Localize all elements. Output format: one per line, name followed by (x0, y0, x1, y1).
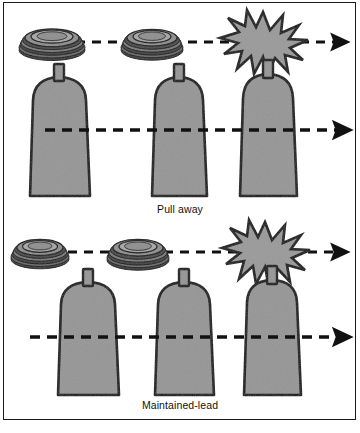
tooth-post-3 (267, 266, 277, 284)
panel-pull-away (19, 10, 336, 196)
tooth-post-2 (174, 64, 184, 81)
tooth-post-3 (263, 60, 273, 78)
disc-stack-1-pull-away (19, 29, 85, 61)
tooth-row-maintained-lead (30, 266, 336, 395)
caption-pull-away: Pull away (0, 203, 360, 215)
disc-stack-2-pull-away (121, 29, 183, 60)
tooth-shape-3 (244, 266, 301, 395)
panel-maintained-lead (11, 220, 336, 395)
caption-maintained-lead: Maintained-lead (0, 399, 360, 411)
figure-root: Pull away Maintained-lead (0, 0, 360, 433)
diagram-canvas (0, 0, 360, 433)
tooth-post-2 (179, 269, 189, 286)
tooth-post-1 (83, 269, 93, 286)
disc-stack-1-maintained-lead (11, 240, 69, 269)
tooth-shape-2 (155, 269, 214, 395)
tooth-post-1 (54, 64, 64, 81)
tooth-shape-1 (58, 269, 119, 395)
tooth-row-pull-away (30, 60, 336, 196)
disc-stack-2-maintained-lead (107, 239, 169, 270)
tooth-shape-3 (240, 60, 297, 196)
